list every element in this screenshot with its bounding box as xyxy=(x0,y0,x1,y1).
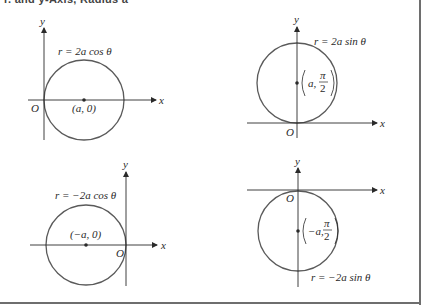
center-point xyxy=(84,243,88,247)
center-label: (−a, 0) xyxy=(70,228,102,241)
origin-label: O xyxy=(116,247,124,259)
equation-label: r = −2a cos θ xyxy=(55,189,117,201)
equation-label: r = 2a sin θ xyxy=(314,35,367,47)
panel-bottom-left: y x O (−a, 0) r = −2a cos θ xyxy=(30,158,166,286)
x-axis-label: x xyxy=(160,239,166,251)
origin-label: O xyxy=(31,102,39,114)
equation-label: r = −2a sin θ xyxy=(311,271,371,283)
polar-circles-diagram: y x O (a, 0) r = 2a cos θ y x O r = 2a s… xyxy=(0,0,423,308)
center-label: (a, 0) xyxy=(72,102,96,115)
center-label-pi: π xyxy=(324,217,330,229)
center-label-a: a, xyxy=(308,77,317,89)
center-label-2: 2 xyxy=(320,82,326,94)
left-paren xyxy=(302,70,305,96)
y-axis-label: y xyxy=(39,15,45,27)
panel-top-right: y x O r = 2a sin θ a, π 2 xyxy=(247,13,385,138)
x-axis-label: x xyxy=(379,117,385,129)
x-axis-label: x xyxy=(158,94,164,106)
center-label-a: −a, xyxy=(308,225,324,237)
center-label-2: 2 xyxy=(324,230,330,242)
center-point xyxy=(295,81,299,85)
origin-label: O xyxy=(286,192,294,204)
left-paren xyxy=(303,218,306,244)
origin-label: O xyxy=(286,126,294,138)
y-axis-label: y xyxy=(293,13,299,25)
x-axis-label: x xyxy=(379,184,385,196)
right-paren xyxy=(331,70,334,96)
panel-bottom-right: y x O r = −2a sin θ −a, π 2 xyxy=(247,155,385,287)
center-point xyxy=(296,229,300,233)
equation-label: r = 2a cos θ xyxy=(58,45,112,57)
y-axis-label: y xyxy=(294,155,300,167)
y-axis-label: y xyxy=(122,158,128,170)
center-label-pi: π xyxy=(320,69,326,81)
panel-top-left: y x O (a, 0) r = 2a cos θ xyxy=(28,15,164,140)
